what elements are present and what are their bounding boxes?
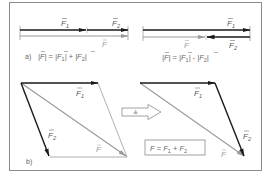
svg-text:F2: F2 — [112, 19, 120, 29]
label-f2: F2 — [229, 41, 237, 51]
svg-text:F: F — [96, 145, 102, 154]
part-a-tag: a) — [25, 53, 31, 61]
part-b-tag: b) — [26, 158, 32, 166]
label-f: F — [221, 150, 227, 159]
vector-f2-arrow — [21, 83, 49, 156]
label-f1: F1 — [61, 19, 69, 29]
label-f1: F1 — [76, 88, 84, 99]
part-b-parallelogram: F1 F2 F b) — [21, 83, 127, 166]
construction-line-right — [98, 83, 127, 157]
vector-f2-arrow — [215, 83, 244, 156]
label-f2: F2 — [48, 130, 56, 141]
svg-text:F1: F1 — [227, 19, 235, 29]
svg-text:F2: F2 — [48, 131, 56, 141]
svg-text:F1: F1 — [194, 89, 202, 99]
svg-text:F: F — [184, 41, 190, 50]
equation-sum-magnitude: |F| = |F1| + |F2| — [38, 52, 95, 62]
equation-difference-magnitude: |F| = |F1| - |F2| — [162, 53, 218, 63]
resultant-f-arrow — [21, 83, 126, 156]
svg-text:F1: F1 — [61, 19, 69, 29]
label-f: F — [102, 40, 108, 49]
svg-text:F: F — [221, 150, 227, 159]
svg-text:F2: F2 — [243, 132, 251, 142]
part-b-triangle: F1 F2 F F = F1 + F2 — [140, 83, 251, 159]
equivalence-symbol: ≙ — [133, 110, 138, 116]
svg-text:|F| = |F1| + |F2|: |F| = |F1| + |F2| — [38, 52, 87, 62]
label-f: F — [184, 41, 190, 51]
vector-addition-diagram: F1 F2 F a) |F| = |F1| + |F2| F1 — [0, 0, 269, 182]
svg-text:F1: F1 — [76, 89, 84, 99]
equivalence-arrow: ≙ — [122, 105, 161, 120]
svg-text:F: F — [102, 40, 108, 49]
label-f1: F1 — [227, 19, 235, 29]
svg-text:|F| = |F1| - |F2|: |F| = |F1| - |F2| — [162, 53, 209, 63]
label-f2: F2 — [112, 19, 120, 29]
label-f1: F1 — [194, 88, 202, 99]
svg-text:F2: F2 — [229, 41, 237, 51]
label-f2: F2 — [243, 131, 251, 142]
formula-box: F = F1 + F2 — [145, 140, 205, 155]
label-f: F — [96, 145, 102, 154]
part-a-opposite-direction: F1 F2 F |F| = |F1| - |F2| — [143, 19, 250, 63]
part-a-same-direction: F1 F2 F a) |F| = |F1| + |F2| — [20, 19, 128, 62]
